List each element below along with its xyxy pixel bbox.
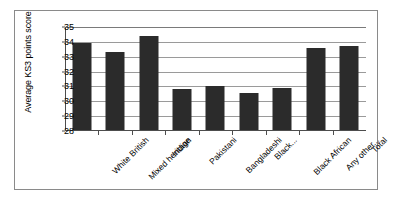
y-tick-label: 35 (48, 22, 74, 32)
bar-slot (165, 27, 198, 131)
category-label: White British (110, 135, 151, 176)
y-tick-label: 31 (48, 81, 74, 91)
bar[interactable] (206, 86, 225, 131)
bar-slot (199, 27, 232, 131)
bar-slot (98, 27, 131, 131)
bar-slot (333, 27, 366, 131)
bar-slot (132, 27, 165, 131)
bar[interactable] (139, 36, 158, 131)
y-tick-label: 29 (48, 111, 74, 121)
bar[interactable] (340, 46, 359, 131)
bar[interactable] (173, 89, 192, 131)
y-tick-label: 34 (48, 37, 74, 47)
bar-slot (232, 27, 265, 131)
chart-frame: Average KS3 points score 353433323130292… (14, 10, 378, 190)
x-axis-category-labels: White BritishMixed heritageIndianPakista… (65, 131, 366, 189)
bar[interactable] (239, 93, 258, 131)
y-axis-title: Average KS3 points score (23, 2, 33, 122)
category-label: Black African (312, 135, 354, 177)
y-tick-label: 30 (48, 96, 74, 106)
bar[interactable] (273, 88, 292, 131)
bar[interactable] (106, 52, 125, 131)
bar-slot (299, 27, 332, 131)
category-label: Indian (170, 135, 193, 158)
bar[interactable] (306, 48, 325, 131)
plot-area (65, 27, 366, 131)
y-tick-label: 33 (48, 52, 74, 62)
category-label: Pakistani (207, 135, 238, 166)
bar[interactable] (72, 43, 91, 131)
bar-slot (266, 27, 299, 131)
y-tick-label: 32 (48, 67, 74, 77)
